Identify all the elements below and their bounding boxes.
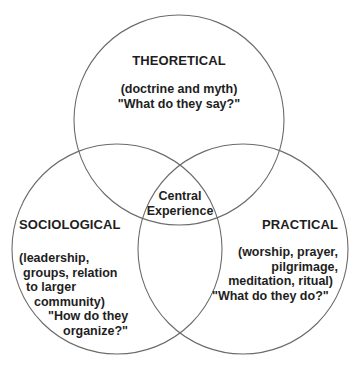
theoretical-question: "What do they say?" <box>99 97 259 112</box>
practical-description: (worship, prayer, pilgrimage, meditation… <box>212 245 338 303</box>
sociological-question: organize?" <box>19 324 128 339</box>
experience-line: Experience <box>130 204 230 219</box>
theoretical-description: (doctrine and myth) "What do they say?" <box>99 82 259 111</box>
theoretical-title: THEORETICAL <box>109 54 249 69</box>
sociological-question: "How do they <box>19 309 128 324</box>
sociological-line: community) <box>19 295 128 310</box>
central-experience-label: Central Experience <box>130 189 230 218</box>
sociological-title: SOCIOLOGICAL <box>19 218 121 233</box>
practical-line: (worship, prayer, <box>212 245 338 260</box>
theoretical-line: (doctrine and myth) <box>99 82 259 97</box>
sociological-line: (leadership, <box>19 251 128 266</box>
central-line: Central <box>130 189 230 204</box>
sociological-line: to larger <box>19 280 128 295</box>
practical-line: pilgrimage, <box>212 260 338 275</box>
sociological-description: (leadership, groups, relation to larger … <box>19 251 128 338</box>
sociological-line: groups, relation <box>19 266 128 281</box>
practical-line: meditation, ritual) <box>212 274 338 289</box>
practical-question: "What do they do?" <box>212 289 338 304</box>
practical-title: PRACTICAL <box>238 218 338 233</box>
